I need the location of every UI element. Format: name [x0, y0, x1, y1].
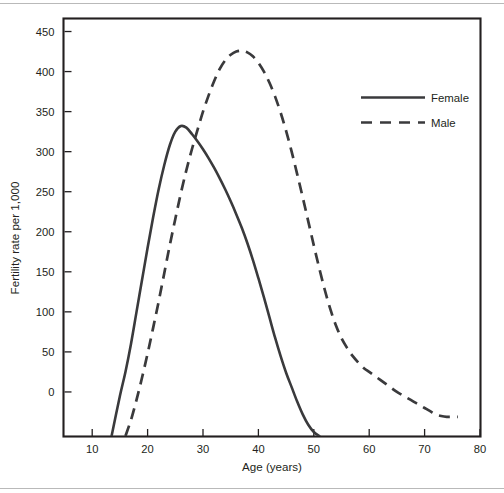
legend-label-female: Female: [431, 92, 469, 104]
x-tick-label: 50: [308, 443, 320, 455]
x-tick-label: 10: [86, 443, 98, 455]
y-tick-label: 100: [36, 306, 55, 318]
fertility-rate-line-chart: 050100150200250300350400450 102030405060…: [0, 0, 504, 493]
y-tick-label: 300: [36, 146, 55, 158]
y-axis-tick-labels: 050100150200250300350400450: [36, 26, 55, 398]
y-axis-title: Fertility rate per 1,000: [8, 182, 21, 295]
y-tick-label: 0: [48, 386, 54, 398]
x-tick-label: 20: [141, 443, 153, 455]
y-tick-label: 250: [36, 186, 55, 198]
y-tick-label: 350: [36, 106, 55, 118]
series-line-female: [112, 126, 320, 436]
x-tick-label: 70: [418, 443, 430, 455]
figure-container: 050100150200250300350400450 102030405060…: [0, 0, 504, 493]
x-axis-ticks: [92, 429, 480, 436]
y-tick-label: 50: [42, 346, 54, 358]
x-axis-tick-labels: 1020304050607080: [86, 443, 486, 455]
legend-label-male: Male: [431, 117, 456, 129]
x-tick-label: 80: [474, 443, 486, 455]
legend: Female Male: [361, 92, 469, 129]
x-tick-label: 30: [197, 443, 209, 455]
y-tick-label: 450: [36, 26, 55, 38]
series-line-male: [125, 51, 457, 436]
y-tick-label: 400: [36, 66, 55, 78]
x-tick-label: 60: [363, 443, 375, 455]
y-tick-label: 150: [36, 266, 55, 278]
x-tick-label: 40: [252, 443, 264, 455]
x-axis-title: Age (years): [242, 460, 302, 473]
y-tick-label: 200: [36, 226, 55, 238]
y-axis-ticks: [65, 32, 72, 392]
